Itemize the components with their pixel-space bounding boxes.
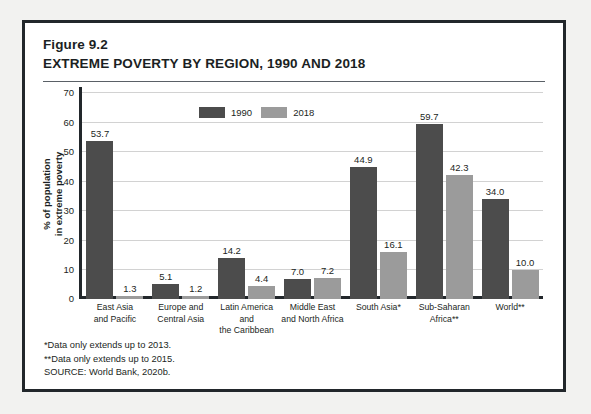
y-tick-label: 70 xyxy=(63,87,74,98)
footnote-2: **Data only extends up to 2015. xyxy=(44,353,545,366)
figure-frame: Figure 9.2 EXTREME POVERTY BY REGION, 19… xyxy=(22,20,566,392)
legend-item-1990: 1990 xyxy=(199,107,252,118)
bar-value-label: 34.0 xyxy=(486,186,505,197)
bar-group: 5.11.2 xyxy=(148,93,214,299)
category-labels: East Asia and PacificEurope and Central … xyxy=(82,299,543,325)
bar-value-label: 59.7 xyxy=(420,111,439,122)
footnotes: *Data only extends up to 2013. **Data on… xyxy=(44,339,545,379)
bar-slot: 59.7 xyxy=(416,93,443,299)
figure-number: Figure 9.2 xyxy=(43,37,545,54)
bar-value-label: 42.3 xyxy=(450,162,469,173)
bar-value-label: 53.7 xyxy=(91,128,110,139)
footnote-1: *Data only extends up to 2013. xyxy=(44,339,545,352)
bar-group: 14.24.4 xyxy=(214,93,280,299)
bar-group: 34.010.0 xyxy=(477,93,543,299)
y-tick-label: 60 xyxy=(63,116,74,127)
plot-canvas: 010203040506070 53.71.35.11.214.24.47.07… xyxy=(79,93,543,299)
bar-value-label: 1.3 xyxy=(123,283,136,294)
category-label: World** xyxy=(477,299,543,325)
bars-layer: 53.71.35.11.214.24.47.07.244.916.159.742… xyxy=(82,93,543,299)
category-label: East Asia and Pacific xyxy=(82,299,148,325)
bar-slot: 42.3 xyxy=(446,93,473,299)
y-axis-title: % of population in extreme poverty xyxy=(41,99,57,289)
legend-item-2018: 2018 xyxy=(261,107,314,118)
bar-1990[interactable] xyxy=(350,167,377,299)
bar-value-label: 16.1 xyxy=(384,239,403,250)
bar-slot: 7.2 xyxy=(314,93,341,299)
bar-slot: 7.0 xyxy=(284,93,311,299)
bar-1990[interactable] xyxy=(86,141,113,299)
bar-value-label: 44.9 xyxy=(354,154,373,165)
bar-2018[interactable] xyxy=(314,278,341,299)
bar-group: 53.71.3 xyxy=(82,93,148,299)
bar-slot: 4.4 xyxy=(248,93,275,299)
legend-label-1990: 1990 xyxy=(231,107,252,118)
bar-1990[interactable] xyxy=(482,199,509,299)
bar-value-label: 4.4 xyxy=(255,273,268,284)
y-tick-label: 10 xyxy=(63,264,74,275)
category-label: Latin America and the Caribbean xyxy=(214,299,280,325)
footnote-source: SOURCE: World Bank, 2020b. xyxy=(44,366,545,379)
bar-slot: 16.1 xyxy=(380,93,407,299)
bar-slot: 53.7 xyxy=(86,93,113,299)
bar-value-label: 14.2 xyxy=(222,245,241,256)
bar-2018[interactable] xyxy=(380,252,407,299)
legend-swatch-1990 xyxy=(199,107,225,118)
bar-2018[interactable] xyxy=(248,286,275,299)
bar-value-label: 7.2 xyxy=(321,265,334,276)
bar-slot: 14.2 xyxy=(218,93,245,299)
y-tick-label: 30 xyxy=(63,205,74,216)
bar-2018[interactable] xyxy=(512,270,539,299)
bar-1990[interactable] xyxy=(152,284,179,299)
bar-slot: 34.0 xyxy=(482,93,509,299)
category-label: Europe and Central Asia xyxy=(148,299,214,325)
figure-title: EXTREME POVERTY BY REGION, 1990 AND 2018 xyxy=(43,55,545,73)
y-tick-label: 40 xyxy=(63,175,74,186)
bar-group: 44.916.1 xyxy=(345,93,411,299)
bar-1990[interactable] xyxy=(284,279,311,300)
bar-slot: 10.0 xyxy=(512,93,539,299)
bar-slot: 1.3 xyxy=(116,93,143,299)
bar-2018[interactable] xyxy=(446,175,473,299)
bar-value-label: 10.0 xyxy=(516,257,535,268)
bar-group: 59.742.3 xyxy=(411,93,477,299)
bar-slot: 1.2 xyxy=(182,93,209,299)
y-tick-label: 0 xyxy=(69,293,74,304)
y-tick-label: 50 xyxy=(63,146,74,157)
chart-plot-area: % of population in extreme poverty 1990 … xyxy=(43,93,545,325)
category-label: South Asia* xyxy=(345,299,411,325)
bar-value-label: 5.1 xyxy=(159,271,172,282)
bar-group: 7.07.2 xyxy=(280,93,346,299)
bar-1990[interactable] xyxy=(218,258,245,300)
legend-label-2018: 2018 xyxy=(293,107,314,118)
figure-content: Figure 9.2 EXTREME POVERTY BY REGION, 19… xyxy=(25,23,563,389)
category-label: Middle East and North Africa xyxy=(280,299,346,325)
chart-legend: 1990 2018 xyxy=(199,107,314,118)
bar-value-label: 1.2 xyxy=(189,283,202,294)
category-label: Sub-Saharan Africa** xyxy=(411,299,477,325)
bar-slot: 44.9 xyxy=(350,93,377,299)
bar-slot: 5.1 xyxy=(152,93,179,299)
legend-swatch-2018 xyxy=(261,107,287,118)
bar-1990[interactable] xyxy=(416,124,443,300)
y-tick-label: 20 xyxy=(63,234,74,245)
title-divider xyxy=(43,81,545,82)
bar-value-label: 7.0 xyxy=(291,266,304,277)
